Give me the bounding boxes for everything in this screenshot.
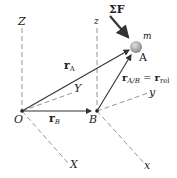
force-label: ΣF: [109, 4, 125, 15]
Y-label: Y: [74, 83, 81, 94]
rA-vector: [22, 50, 129, 111]
x-label: x: [144, 160, 150, 171]
z-label: z: [94, 17, 99, 26]
rB-label: rB: [49, 113, 60, 126]
mass-label: m: [143, 32, 152, 41]
force-arrow: [110, 16, 128, 37]
Z-label: Z: [18, 16, 26, 27]
X-axis: [22, 111, 68, 163]
relative-motion-diagram: Z z ΣF m A rA Y rA/B = rrel y O rB B X x: [0, 0, 177, 178]
y-label: y: [149, 87, 155, 98]
x-axis: [97, 111, 144, 163]
point-A-label: A: [139, 52, 147, 63]
rAB-label: rA/B = rrel: [122, 73, 170, 85]
X-label: X: [70, 159, 78, 170]
point-O-label: O: [14, 114, 23, 125]
y-axis: [97, 93, 148, 111]
point-B-label: B: [89, 114, 97, 125]
Y-axis: [22, 93, 72, 111]
rA-label: rA: [64, 60, 75, 73]
